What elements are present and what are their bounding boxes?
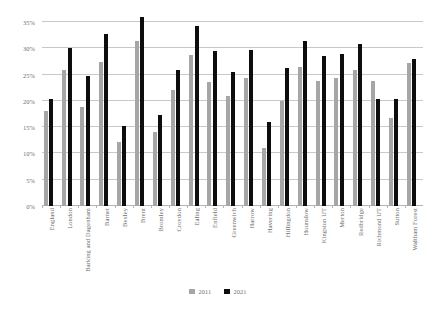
bar-2011: [135, 41, 139, 206]
bar-group: [151, 22, 169, 206]
x-tickmark: [169, 206, 170, 208]
bar-2021: [358, 44, 362, 206]
bar-2011: [117, 142, 121, 206]
x-tickmark: [223, 206, 224, 208]
bar-group: [350, 22, 368, 206]
x-tickmark: [187, 206, 188, 208]
bar-2011: [80, 107, 84, 206]
y-tick-label: 5%: [26, 176, 35, 183]
x-tick-label: Hillingdon: [284, 208, 291, 237]
bar-2011: [226, 96, 230, 206]
bar-group: [78, 22, 96, 206]
x-tickmark: [78, 206, 79, 208]
x-tick-label: Merton: [338, 208, 345, 228]
bar-group: [387, 22, 405, 206]
legend-label: 2021: [233, 288, 246, 295]
bar-2011: [99, 62, 103, 206]
x-tick-label: Hounslow: [302, 208, 309, 235]
bar-group: [369, 22, 387, 206]
x-tickmark: [60, 206, 61, 208]
x-tick-label: Barking and Dagenham: [84, 208, 91, 272]
x-tick-label: Bromley: [157, 208, 164, 231]
x-tickmark: [278, 206, 279, 208]
y-tick-label: 10%: [23, 150, 35, 157]
x-tick-label: Redbridge: [357, 208, 364, 236]
bar-2011: [262, 148, 266, 206]
bar-group: [187, 22, 205, 206]
bar-2011: [298, 67, 302, 206]
x-tick-label: Enfield: [211, 208, 218, 228]
x-tickmark: [260, 206, 261, 208]
y-tick-label: 35%: [23, 19, 35, 26]
y-tick-label: 30%: [23, 45, 35, 52]
bar-2011: [353, 70, 357, 206]
bars-layer: [42, 22, 423, 206]
bar-group: [96, 22, 114, 206]
bar-2021: [322, 56, 326, 206]
x-tick-label: Croydon: [175, 208, 182, 231]
bar-group: [314, 22, 332, 206]
x-tickmark: [314, 206, 315, 208]
bar-group: [405, 22, 423, 206]
bar-group: [223, 22, 241, 206]
y-tick-label: 0%: [26, 203, 35, 210]
x-tick-label: Kingston UT: [320, 208, 327, 243]
bar-2021: [140, 17, 144, 206]
legend-swatch-icon: [189, 289, 195, 295]
x-tickmark: [42, 206, 43, 208]
legend-entry[interactable]: 2011: [189, 288, 211, 295]
x-axis-tick-labels: EnglandLondonBarking and DagenhamBarnetB…: [42, 208, 423, 286]
bar-2011: [334, 78, 338, 206]
bar-group: [205, 22, 223, 206]
bar-group: [115, 22, 133, 206]
x-tickmark: [133, 206, 134, 208]
x-tickmark: [369, 206, 370, 208]
bar-chart: 0%5%10%15%20%25%30%35% EnglandLondonBark…: [0, 0, 436, 317]
x-tick-label: Ealing: [193, 208, 200, 226]
x-tick-label: England: [48, 208, 55, 230]
x-tickmark: [387, 206, 388, 208]
x-tick-label: Sutton: [393, 208, 400, 226]
bar-2021: [104, 34, 108, 206]
bar-2021: [394, 99, 398, 206]
x-tickmark: [350, 206, 351, 208]
bar-group: [42, 22, 60, 206]
bar-2021: [158, 115, 162, 206]
bar-2011: [407, 63, 411, 206]
x-tickmark: [96, 206, 97, 208]
bar-group: [60, 22, 78, 206]
bar-2021: [195, 26, 199, 206]
bar-2021: [86, 76, 90, 206]
bar-2011: [244, 78, 248, 206]
x-tickmark: [115, 206, 116, 208]
bar-2021: [303, 41, 307, 206]
x-tickmark: [332, 206, 333, 208]
x-tickmark: [151, 206, 152, 208]
x-tick-label: Bexley: [121, 208, 128, 227]
bar-2011: [316, 81, 320, 206]
bar-2021: [49, 99, 53, 206]
bar-group: [332, 22, 350, 206]
bar-2011: [389, 118, 393, 206]
bar-2011: [44, 111, 48, 206]
y-tick-label: 25%: [23, 71, 35, 78]
legend-entry[interactable]: 2021: [224, 288, 246, 295]
bar-group: [242, 22, 260, 206]
x-tick-label: Brent: [139, 208, 146, 223]
x-tick-label: Barnet: [103, 208, 110, 226]
y-axis-tick-labels: 0%5%10%15%20%25%30%35%: [0, 22, 40, 206]
legend-swatch-icon: [224, 289, 230, 295]
bar-2011: [62, 70, 66, 206]
bar-2021: [412, 59, 416, 206]
x-tick-label: London: [66, 208, 73, 229]
x-tickmark: [296, 206, 297, 208]
y-tick-label: 20%: [23, 97, 35, 104]
x-tickmark: [205, 206, 206, 208]
x-tickmark: [242, 206, 243, 208]
bar-2011: [153, 132, 157, 206]
bar-2011: [189, 55, 193, 206]
bar-2021: [231, 72, 235, 206]
bar-2011: [371, 81, 375, 206]
bar-group: [296, 22, 314, 206]
x-tick-label: Harrow: [248, 208, 255, 228]
